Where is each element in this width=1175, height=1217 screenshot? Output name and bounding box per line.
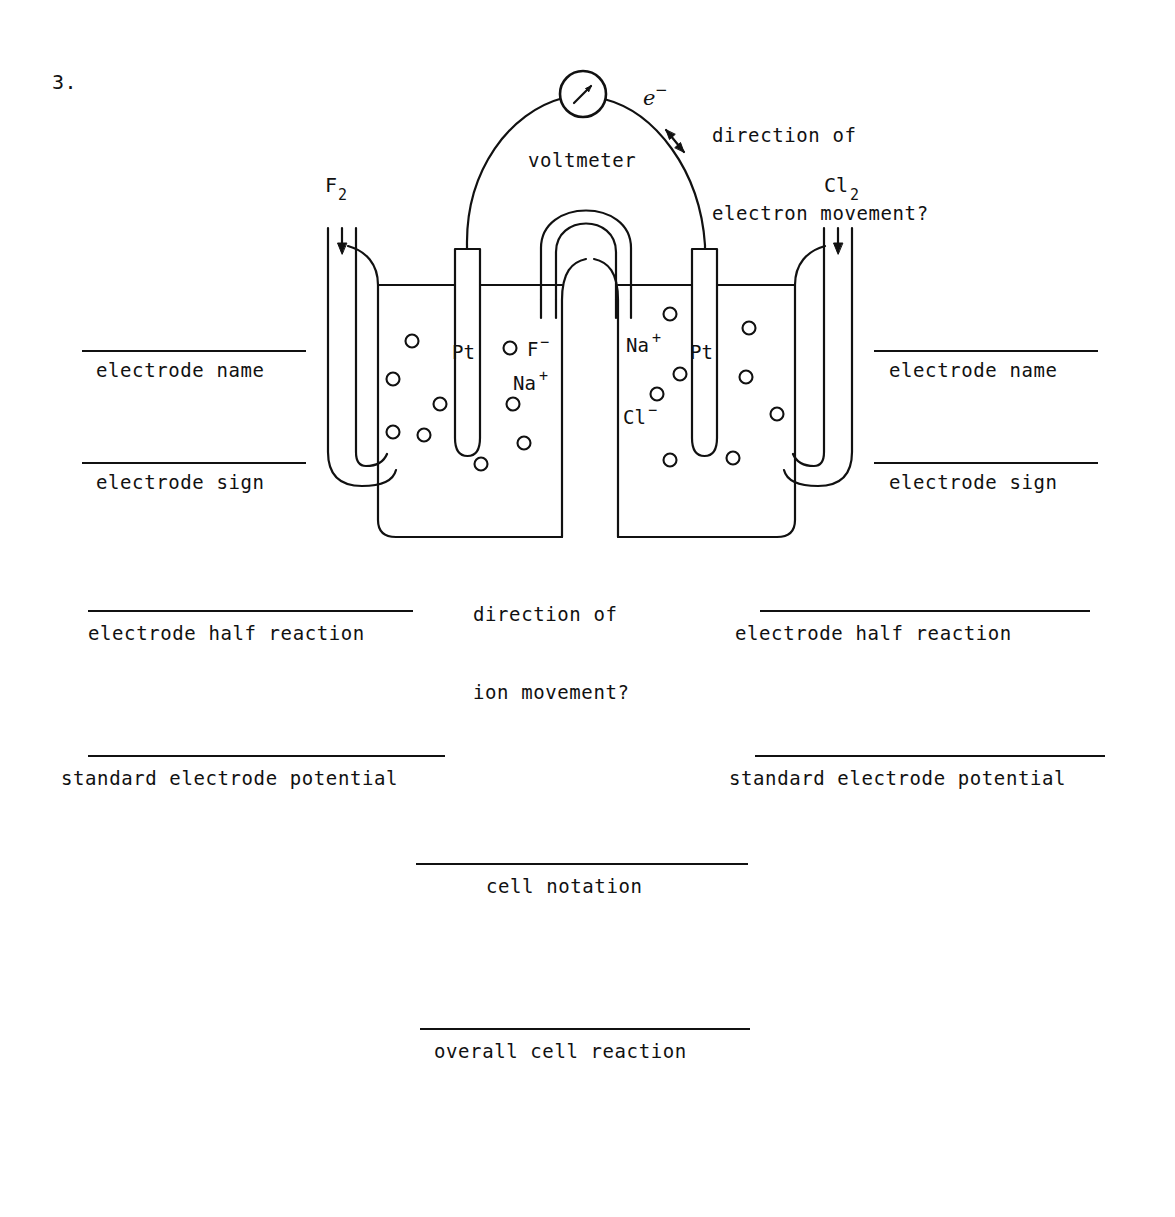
ion-dot [674,368,687,381]
electron-movement-question-line1: direction of [712,122,929,148]
overall-cell-reaction-label: overall cell reaction [434,1040,687,1062]
right-standard-electrode-potential-line[interactable] [755,755,1105,757]
right-electrode-half-reaction-line[interactable] [760,610,1090,612]
electron-movement-question: direction of electron movement? [712,70,929,278]
worksheet-page: 3. [0,0,1175,1217]
ion-movement-question-line2: ion movement? [473,679,630,705]
left-electrode-name-label: electrode name [96,359,265,381]
cell-notation-label: cell notation [486,875,643,897]
ion-dot [651,388,664,401]
right-standard-electrode-potential-label: standard electrode potential [729,767,1066,789]
cell-center-divider-left [562,259,586,537]
right-electrode-sign-label: electrode sign [889,471,1058,493]
ion-movement-question-line1: direction of [473,601,630,627]
right-anion-charge: − [648,401,657,419]
overall-cell-reaction-line[interactable] [420,1028,750,1030]
ion-dot [664,308,677,321]
ion-dot [387,426,400,439]
ion-dot [771,408,784,421]
left-electrode-half-reaction-line[interactable] [88,610,413,612]
left-anion-charge: − [540,333,549,351]
ion-dot [518,437,531,450]
left-standard-electrode-potential-label: standard electrode potential [61,767,398,789]
left-electrode-sign-label: electrode sign [96,471,265,493]
right-anion-label: Cl [623,406,646,428]
right-pt-label: Pt [690,341,713,363]
cell-notation-line[interactable] [416,863,748,865]
left-beaker-lip-curve [348,246,378,285]
left-gas-subscript: 2 [338,186,347,204]
ion-dot [507,398,520,411]
salt-bridge-inner-left-wall [556,224,616,301]
voltmeter-label: voltmeter [528,149,636,171]
ion-dot [727,452,740,465]
ion-dot [740,371,753,384]
right-cation-charge: + [652,329,661,347]
left-electrode-half-reaction-label: electrode half reaction [88,622,365,644]
ion-movement-question: direction of ion movement? [473,549,630,757]
left-standard-electrode-potential-line[interactable] [88,755,445,757]
left-gas-inlet-outer-wall [328,228,396,486]
right-electrode-name-line[interactable] [874,350,1098,352]
right-electrode-name-label: electrode name [889,359,1058,381]
electron-movement-question-line2: electron movement? [712,200,929,226]
ion-dot [664,454,677,467]
ion-dot [475,458,488,471]
right-electrode-sign-line[interactable] [874,462,1098,464]
ion-dot [406,335,419,348]
left-anion-label: F [527,338,538,360]
circuit-wire-right [604,99,705,245]
cell-center-divider-right [594,259,618,537]
ion-dot [504,342,517,355]
left-pt-label: Pt [452,341,475,363]
ion-dot [434,398,447,411]
left-electrode-name-line[interactable] [82,350,306,352]
circuit-wire-left [467,98,563,245]
ion-dot [418,429,431,442]
left-gas-flow-arrow-head [338,243,347,254]
left-electrode-sign-line[interactable] [82,462,306,464]
question-number: 3. [52,70,77,94]
left-cation-charge: + [539,367,548,385]
left-cation-label: Na [513,372,536,394]
ion-dot [387,373,400,386]
right-cation-label: Na [626,334,649,356]
left-gas-label: F [325,173,337,197]
electron-symbol-label: e [643,86,655,110]
ion-dot [743,322,756,335]
electron-symbol-charge: − [655,81,668,99]
right-electrode-half-reaction-label: electrode half reaction [735,622,1012,644]
